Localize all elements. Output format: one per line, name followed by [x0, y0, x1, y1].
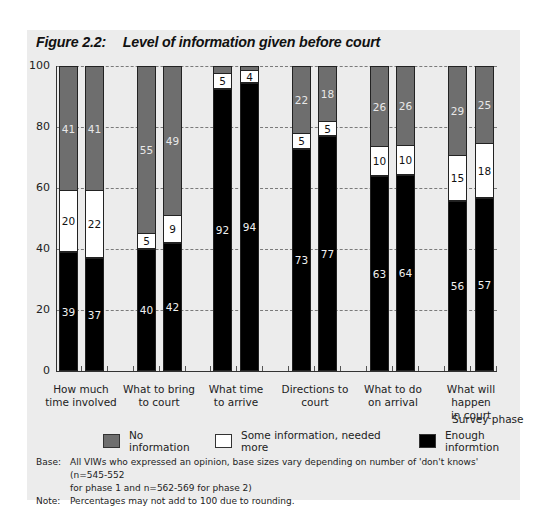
segment-enough-information: 63	[370, 176, 389, 371]
gridline-60	[56, 188, 497, 189]
segment-some-information: 5	[213, 73, 232, 89]
gridline-40	[56, 249, 497, 250]
segment-enough-information: 42	[163, 243, 182, 371]
legend-swatch-black	[419, 434, 436, 448]
bar-directions-phase1: 22 5 73	[292, 66, 311, 371]
bar-what-to-bring-phase2: 49 9 42	[163, 66, 182, 371]
legend-item-no-information: No information	[103, 429, 207, 453]
x-tick	[496, 366, 497, 371]
segment-enough-information: 94	[240, 83, 259, 371]
x-tick	[288, 366, 289, 371]
bar-what-to-do-phase1: 26 10 63	[370, 66, 389, 371]
legend-swatch-gray	[103, 434, 120, 448]
segment-no-information: 18	[318, 66, 337, 122]
segment-enough-information: 57	[475, 198, 494, 371]
x-tick	[444, 366, 445, 371]
bar-how-much-time-phase2: 41 22 37	[85, 66, 104, 371]
bar-directions-phase2: 18 5 77	[318, 66, 337, 371]
x-tick	[314, 366, 315, 371]
category-label-what-to-do: What to do on arrival	[348, 383, 438, 409]
base-note: Base: All VIWs who expressed an opinion,…	[36, 456, 516, 495]
x-tick	[107, 366, 108, 371]
x-tick	[133, 366, 134, 371]
x-tick	[470, 366, 471, 371]
footnotes: Base: All VIWs who expressed an opinion,…	[36, 456, 516, 508]
segment-no-information: 41	[85, 66, 104, 191]
category-label-directions: Directions to court	[270, 383, 360, 409]
bar-what-will-happen-phase2: 25 18 57	[475, 66, 494, 371]
segment-enough-information: 64	[396, 175, 415, 371]
segment-no-information: 26	[396, 66, 415, 146]
legend-item-some-information: Some information, needed more	[215, 429, 411, 453]
legend: No information Some information, needed …	[103, 429, 550, 453]
segment-some-information: 15	[448, 155, 467, 201]
segment-enough-information: 73	[292, 149, 311, 371]
x-tick	[81, 366, 82, 371]
segment-no-information: 55	[137, 66, 156, 234]
x-axis	[56, 371, 497, 372]
segment-no-information: 49	[163, 66, 182, 216]
x-tick	[236, 366, 237, 371]
bar-how-much-time-phase1: 41 20 39	[59, 66, 78, 371]
y-tick-40: 40	[20, 242, 50, 255]
y-axis	[56, 66, 57, 372]
segment-enough-information: 56	[448, 201, 467, 371]
category-label-how-much-time: How much time involved	[36, 383, 126, 409]
segment-some-information: 10	[370, 146, 389, 176]
x-tick	[340, 366, 341, 371]
x-axis-title: Survey phase	[452, 413, 524, 425]
x-tick	[210, 366, 211, 371]
x-tick	[366, 366, 367, 371]
gridline-100	[56, 66, 497, 67]
segment-enough-information: 92	[213, 89, 232, 371]
gridline-80	[56, 127, 497, 128]
segment-enough-information: 37	[85, 258, 104, 371]
rounding-note: Note: Percentages may not add to 100 due…	[36, 495, 516, 508]
legend-item-enough-information: Enough informtion	[419, 429, 542, 453]
segment-some-information: 9	[163, 215, 182, 243]
segment-enough-information: 77	[318, 136, 337, 371]
bar-what-will-happen-phase1: 29 15 56	[448, 66, 467, 371]
y-tick-0: 0	[20, 364, 50, 377]
bar-what-time-phase1: 5 92	[213, 66, 232, 371]
bar-what-time-phase2: 4 94	[240, 66, 259, 371]
bar-what-to-bring-phase1: 55 5 40	[137, 66, 156, 371]
x-tick	[159, 366, 160, 371]
segment-enough-information: 40	[137, 249, 156, 371]
segment-no-information: 22	[292, 66, 311, 134]
segment-some-information: 22	[85, 190, 104, 258]
x-tick	[262, 366, 263, 371]
chart-plot-area: 100 80 60 40 20 0 41 20 39 41 22 37 55 5…	[0, 0, 550, 529]
x-tick	[418, 366, 419, 371]
segment-some-information: 18	[475, 143, 494, 198]
gridline-20	[56, 310, 497, 311]
y-tick-60: 60	[20, 181, 50, 194]
segment-some-information: 10	[396, 145, 415, 175]
x-tick	[185, 366, 186, 371]
y-tick-80: 80	[20, 120, 50, 133]
x-tick	[392, 366, 393, 371]
segment-no-information: 29	[448, 66, 467, 156]
segment-enough-information: 39	[59, 252, 78, 371]
segment-some-information: 5	[137, 233, 156, 249]
legend-swatch-white	[215, 434, 232, 448]
segment-some-information: 4	[240, 70, 259, 83]
y-tick-20: 20	[20, 303, 50, 316]
bar-what-to-do-phase2: 26 10 64	[396, 66, 415, 371]
segment-no-information: 41	[59, 66, 78, 191]
segment-no-information: 25	[475, 66, 494, 144]
y-tick-100: 100	[20, 59, 50, 72]
category-label-what-time: What time to arrive	[191, 383, 281, 409]
segment-some-information: 5	[292, 133, 311, 149]
segment-some-information: 5	[318, 121, 337, 136]
segment-some-information: 20	[59, 190, 78, 252]
segment-no-information: 26	[370, 66, 389, 147]
